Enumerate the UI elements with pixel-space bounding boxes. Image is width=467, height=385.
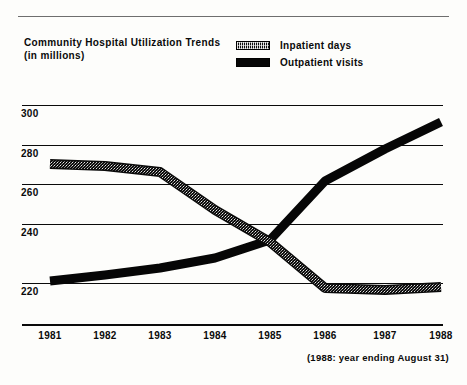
- x-tick-label-1986: 1986: [303, 330, 347, 341]
- x-tick-label-1981: 1981: [28, 330, 72, 341]
- chart-footnote: (1988: year ending August 31): [0, 352, 449, 363]
- y-tick-label-260: 260: [21, 187, 51, 198]
- y-tick-label-220: 220: [21, 286, 51, 297]
- x-tick-label-1983: 1983: [138, 330, 182, 341]
- x-tick-label-1982: 1982: [83, 330, 127, 341]
- plot-area: 300 280 260 240 220 1981 1982 1983 1984 …: [0, 0, 467, 385]
- y-tick-label-300: 300: [21, 108, 51, 119]
- x-tick-label-1984: 1984: [193, 330, 237, 341]
- x-tick-label-1988: 1988: [419, 330, 463, 341]
- x-tick-label-1985: 1985: [248, 330, 292, 341]
- plot-canvas: [0, 0, 467, 385]
- x-tick-label-1987: 1987: [363, 330, 407, 341]
- chart-figure: Community Hospital Utilization Trends (i…: [0, 0, 467, 385]
- y-tick-label-280: 280: [21, 148, 51, 159]
- y-tick-label-240: 240: [21, 227, 51, 238]
